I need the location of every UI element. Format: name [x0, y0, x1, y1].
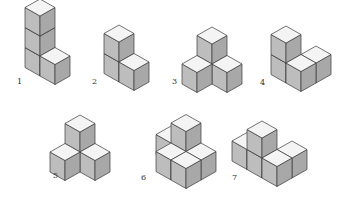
figure-label: 3: [172, 77, 177, 86]
figure-2: 2: [92, 25, 149, 91]
cube: [80, 144, 110, 181]
cube-figures-diagram: 1234567: [0, 0, 337, 202]
figure-label: 2: [92, 77, 97, 86]
figure-label: 5: [53, 171, 58, 180]
figures-layer: 1234567: [17, 0, 331, 189]
cube: [286, 55, 316, 92]
cube: [171, 152, 201, 189]
figure-6: 6: [141, 115, 216, 189]
cube: [40, 48, 70, 85]
figure-label: 1: [17, 77, 22, 86]
cube: [212, 56, 242, 93]
figure-3: 3: [172, 27, 242, 93]
figure-4: 4: [260, 26, 331, 92]
figure-label: 6: [141, 173, 146, 182]
cube: [119, 54, 149, 91]
figure-label: 7: [232, 173, 237, 182]
figure-label: 4: [260, 78, 265, 87]
figure-1: 1: [17, 0, 70, 86]
cube: [262, 150, 292, 187]
figure-7: 7: [232, 121, 307, 187]
figure-5: 5: [50, 115, 110, 181]
cube: [182, 56, 212, 93]
